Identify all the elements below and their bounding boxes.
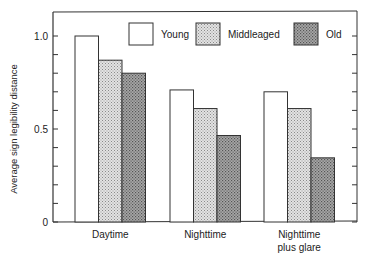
legend-swatch-old xyxy=(294,23,318,45)
bar-old-1 xyxy=(217,136,241,222)
legend-label-old: Old xyxy=(326,29,342,40)
bar-middleaged-0 xyxy=(99,60,123,222)
bar-young-0 xyxy=(75,36,99,222)
plot-area: 00.51.0Average sign legibility distanceD… xyxy=(8,11,357,253)
x-category-label: plus glare xyxy=(278,242,322,253)
bar-middleaged-1 xyxy=(194,109,218,222)
bar-young-2 xyxy=(264,92,288,222)
legend-label-young: Young xyxy=(161,29,189,40)
x-category-label: Nighttime xyxy=(278,229,321,240)
legend-swatch-middleaged xyxy=(196,23,220,45)
y-tick-label: 0.5 xyxy=(34,124,48,135)
y-tick-label: 0 xyxy=(42,217,48,228)
bar-old-0 xyxy=(122,73,146,222)
bar-middleaged-2 xyxy=(288,109,312,222)
x-category-label: Daytime xyxy=(92,229,129,240)
bar-young-1 xyxy=(170,90,194,222)
y-tick-label: 1.0 xyxy=(34,31,48,42)
x-category-label: Nighttime xyxy=(184,229,227,240)
bar-old-2 xyxy=(311,158,335,222)
legend-label-middleaged: Middleaged xyxy=(228,29,280,40)
legend-swatch-young xyxy=(129,23,153,45)
frame-top xyxy=(53,11,357,12)
y-axis-label: Average sign legibility distance xyxy=(8,64,19,194)
bar-chart: 00.51.0Average sign legibility distanceD… xyxy=(0,0,369,261)
